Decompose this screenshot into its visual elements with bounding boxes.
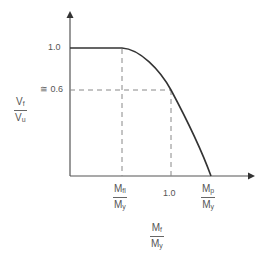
y-axis-arrow-icon [67,11,74,18]
y-tick-0-6: ≅ 0.6 [40,84,63,94]
x-axis-label: Mf My [150,222,164,251]
diagram-canvas [0,0,269,264]
x-tick-1-0: 1.0 [163,188,176,198]
x-axis-arrow-icon [248,173,255,180]
x-tick-mp-my: Mp My [201,183,215,212]
y-tick-1-0: 1.0 [48,42,61,52]
y-axis-label: Vf Vu [14,96,27,125]
interaction-curve [70,48,211,176]
x-tick-mfl-my: Mfl My [113,183,127,212]
